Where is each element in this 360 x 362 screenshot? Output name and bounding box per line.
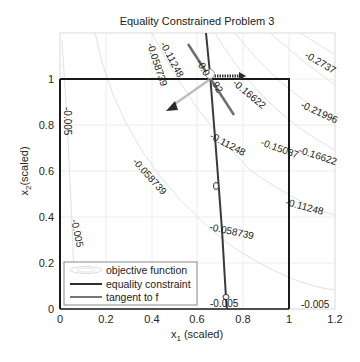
x-axis: 0 0.2 0.4 0.6 0.8 1 1.2 x1 (scaled) — [57, 313, 343, 343]
y-axis: 0 0.2 0.4 0.6 0.8 1 x2(scaled) — [18, 73, 54, 315]
svg-text:0.6: 0.6 — [189, 313, 204, 325]
svg-text:1.2: 1.2 — [327, 313, 342, 325]
svg-text:1: 1 — [48, 73, 54, 85]
y-axis-label: x2(scaled) — [18, 146, 33, 195]
svg-text:0.4: 0.4 — [144, 313, 159, 325]
svg-text:-0.005: -0.005 — [301, 299, 330, 310]
chart-title: Equality Constrained Problem 3 — [120, 15, 275, 27]
plot-area: -0.058739 -0.11248 -0.0 -0.16622 -0.2737… — [60, 33, 340, 310]
svg-text:0.2: 0.2 — [39, 257, 54, 269]
legend-objective: objective function — [106, 264, 187, 276]
legend-equality: equality constraint — [106, 278, 191, 290]
svg-text:0.8: 0.8 — [235, 313, 250, 325]
iterate-marker — [214, 183, 219, 190]
svg-text:-0.005: -0.005 — [210, 298, 239, 309]
chart-figure: Equality Constrained Problem 3 — [0, 0, 360, 362]
svg-text:0: 0 — [48, 303, 54, 315]
svg-text:0.8: 0.8 — [39, 119, 54, 131]
legend: objective function equality constraint t… — [64, 262, 197, 305]
svg-text:0: 0 — [57, 313, 63, 325]
svg-text:0.2: 0.2 — [98, 313, 113, 325]
x-axis-label: x1 (scaled) — [171, 328, 223, 343]
svg-text:-0.005: -0.005 — [62, 107, 73, 136]
svg-text:1: 1 — [286, 313, 292, 325]
svg-text:0.6: 0.6 — [39, 165, 54, 177]
svg-text:0.4: 0.4 — [39, 211, 54, 223]
legend-tangent: tangent to f — [106, 291, 159, 303]
